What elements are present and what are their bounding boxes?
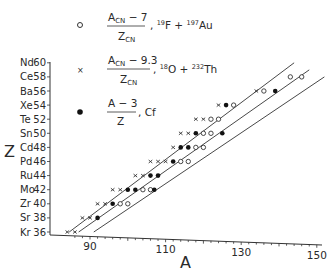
filled-circle-point (152, 187, 157, 192)
filled-circle-point (126, 187, 131, 192)
open-circle-point (118, 202, 122, 206)
legend1-num-rest: − 7 (125, 11, 147, 23)
y-tick-label: Xe (20, 100, 33, 111)
svg-text:, 19F + 197Au: , 19F + 197Au (150, 19, 213, 31)
legend2-den-sub: CN (127, 79, 137, 87)
cross-point (194, 118, 198, 121)
y-tick-value: 52 (33, 114, 46, 125)
legend-item-18O-232Th: × ACN − 9.3 ZCN , 18O + 232Th (77, 54, 217, 87)
filled-circle-point (171, 159, 176, 164)
filled-circle-icon (77, 109, 83, 115)
filled-circle-point (156, 173, 161, 178)
open-circle-point (209, 131, 213, 135)
y-tick-value: 60 (33, 57, 46, 68)
legend2-plus: + (176, 63, 191, 75)
y-tick-value: 56 (33, 86, 46, 97)
filled-circle-point (95, 216, 100, 221)
y-tick-value: 48 (33, 142, 46, 153)
legend1-num-sub: CN (115, 17, 125, 25)
cross-point (255, 90, 259, 93)
cross-point (96, 202, 100, 205)
filled-circle-point (186, 145, 191, 150)
cross-point (118, 188, 122, 191)
filled-circle-point (110, 202, 115, 207)
legend3-den: Z (117, 115, 124, 127)
cross-point (81, 216, 85, 219)
legend1-mass1: 19 (157, 19, 165, 27)
open-circle-point (231, 103, 235, 107)
filled-circle-point (224, 103, 229, 108)
svg-text:ZCN: ZCN (120, 73, 137, 87)
cross-point (164, 160, 168, 163)
y-tick-label: Ru (20, 170, 33, 181)
svg-text:ZCN: ZCN (118, 30, 135, 44)
y-tick-label: Zr (20, 198, 32, 209)
y-tick-value: 58 (33, 71, 46, 82)
open-circle-point (179, 159, 183, 163)
cross-icon: × (77, 66, 84, 75)
legend2-num-sub: CN (115, 60, 125, 68)
x-tick-label: 110 (156, 243, 176, 255)
y-tick-value: 44 (33, 170, 46, 181)
axes: Kr36Sr38Zr40Mo42Ru44Pd46Cd48Sn50Te52Xe54… (4, 57, 327, 272)
y-tick-label: Te (19, 114, 31, 125)
legend2-mass1: 18 (160, 63, 168, 71)
x-tick-label: 90 (83, 240, 96, 252)
legend1-den-sub: CN (125, 36, 135, 44)
open-circle-point (126, 202, 130, 206)
legend-item-Cf: A − 3 Z , Cf (77, 97, 156, 127)
y-tick-label: Sr (20, 212, 31, 223)
y-tick-label: Sn (20, 128, 33, 139)
legend1-den: Z (118, 30, 125, 42)
open-circle-icon (78, 23, 83, 28)
svg-text:, 18O + 232Th: , 18O + 232Th (153, 63, 217, 75)
legend2-el2: Th (203, 63, 217, 75)
y-tick-value: 36 (33, 227, 46, 238)
open-circle-point (288, 75, 292, 79)
svg-text:ACN − 9.3: ACN − 9.3 (108, 54, 157, 68)
open-circle-point (201, 131, 205, 135)
cross-point (171, 146, 175, 149)
cross-point (179, 132, 183, 135)
cross-point (66, 231, 70, 234)
open-circle-point (186, 159, 190, 163)
cross-point (73, 231, 77, 234)
svg-text:, Cf: , Cf (138, 106, 156, 118)
legend2-mass2: 232 (192, 63, 204, 71)
cross-point (217, 104, 221, 107)
svg-text:ACN − 7: ACN − 7 (108, 11, 147, 25)
cross-point (156, 160, 160, 163)
cross-point (186, 132, 190, 135)
y-tick-value: 40 (33, 198, 46, 209)
scatter-chart: Kr36Sr38Zr40Mo42Ru44Pd46Cd48Sn50Te52Xe54… (0, 0, 331, 278)
y-tick-label: Ce (20, 71, 33, 82)
filled-circle-point (220, 131, 225, 136)
open-circle-point (209, 117, 213, 121)
y-tick-label: Kr (20, 227, 32, 238)
legend1-plus: + (171, 19, 186, 31)
legend3-reaction: Cf (145, 106, 156, 118)
y-tick-value: 38 (33, 212, 46, 223)
open-circle-point (194, 145, 198, 149)
cross-point (111, 188, 115, 191)
filled-circle-point (133, 187, 138, 192)
y-axis-label: Z (4, 142, 15, 161)
x-axis-label: A (180, 253, 191, 272)
filled-circle-point (273, 89, 278, 94)
filled-circle-point (194, 131, 199, 136)
legend1-el2: Au (199, 19, 213, 31)
filled-circle-point (178, 145, 183, 150)
cross-point (202, 118, 206, 121)
legend1-mass2: 197 (187, 19, 199, 27)
open-circle-point (299, 75, 303, 79)
filled-circle-point (148, 173, 153, 178)
y-tick-label: Nd (20, 57, 34, 68)
cross-point (134, 174, 138, 177)
y-tick-labels: Kr36Sr38Zr40Mo42Ru44Pd46Cd48Sn50Te52Xe54… (19, 57, 46, 237)
legend2-den: Z (120, 73, 127, 85)
y-tick-label: Ba (20, 86, 33, 97)
y-tick-value: 54 (33, 100, 46, 111)
open-circle-point (262, 89, 266, 93)
y-tick-value: 50 (33, 128, 46, 139)
cross-point (149, 160, 153, 163)
